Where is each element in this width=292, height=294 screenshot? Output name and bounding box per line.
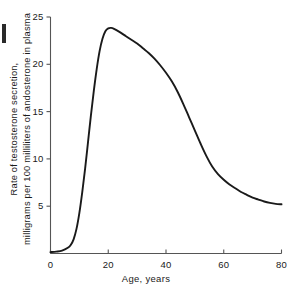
chart-figure: 510152025 020406080 Age, years Rate of t…	[0, 0, 292, 294]
y-axis-title-line-2: milligrams per 100 milliliters of andost…	[21, 13, 34, 245]
x-tick-label-0: 0	[48, 260, 53, 270]
tick-marks-group	[47, 17, 282, 254]
x-tick-label-40: 40	[161, 260, 172, 270]
y-axis-title: Rate of testosterone secretion, milligra…	[6, 0, 36, 258]
series-line-0	[51, 28, 282, 252]
x-tick-label-20: 20	[103, 260, 114, 270]
x-tick-label-60: 60	[218, 260, 229, 270]
x-axis-title: Age, years	[0, 274, 292, 284]
x-tick-label-80: 80	[276, 260, 287, 270]
line-chart-plot	[0, 0, 292, 294]
axes-group	[51, 17, 282, 254]
y-tick-label-5: 5	[38, 201, 43, 211]
data-series-group	[51, 28, 282, 252]
y-axis-title-line-1: Rate of testosterone secretion,	[8, 63, 21, 196]
